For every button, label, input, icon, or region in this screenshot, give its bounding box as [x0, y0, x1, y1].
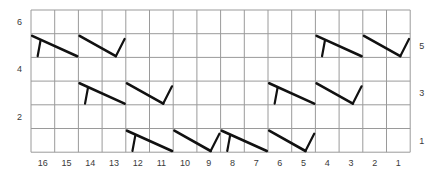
- column-label-10: 10: [180, 158, 190, 168]
- column-label-12: 12: [133, 158, 143, 168]
- column-label-2: 2: [372, 158, 377, 168]
- column-label-3: 3: [348, 158, 353, 168]
- column-label-9: 9: [206, 158, 211, 168]
- column-label-6: 6: [277, 158, 282, 168]
- row-label-left-2: 2: [17, 112, 22, 122]
- column-label-8: 8: [230, 158, 235, 168]
- column-label-4: 4: [325, 158, 330, 168]
- column-label-1: 1: [396, 158, 401, 168]
- row-label-left-6: 6: [17, 17, 22, 27]
- row-label-left-4: 4: [17, 64, 22, 74]
- column-label-7: 7: [254, 158, 259, 168]
- row-label-right-5: 5: [419, 41, 424, 51]
- column-label-5: 5: [301, 158, 306, 168]
- knitting-cable-chart: 64253116151413121110987654321: [0, 0, 438, 178]
- chart-background: [0, 0, 438, 178]
- chart-canvas: 64253116151413121110987654321: [0, 0, 438, 178]
- column-label-13: 13: [109, 158, 119, 168]
- column-label-11: 11: [157, 158, 166, 168]
- column-label-15: 15: [62, 158, 72, 168]
- column-label-16: 16: [38, 158, 48, 168]
- row-label-right-3: 3: [419, 88, 424, 98]
- row-label-right-1: 1: [419, 136, 424, 146]
- column-label-14: 14: [85, 158, 95, 168]
